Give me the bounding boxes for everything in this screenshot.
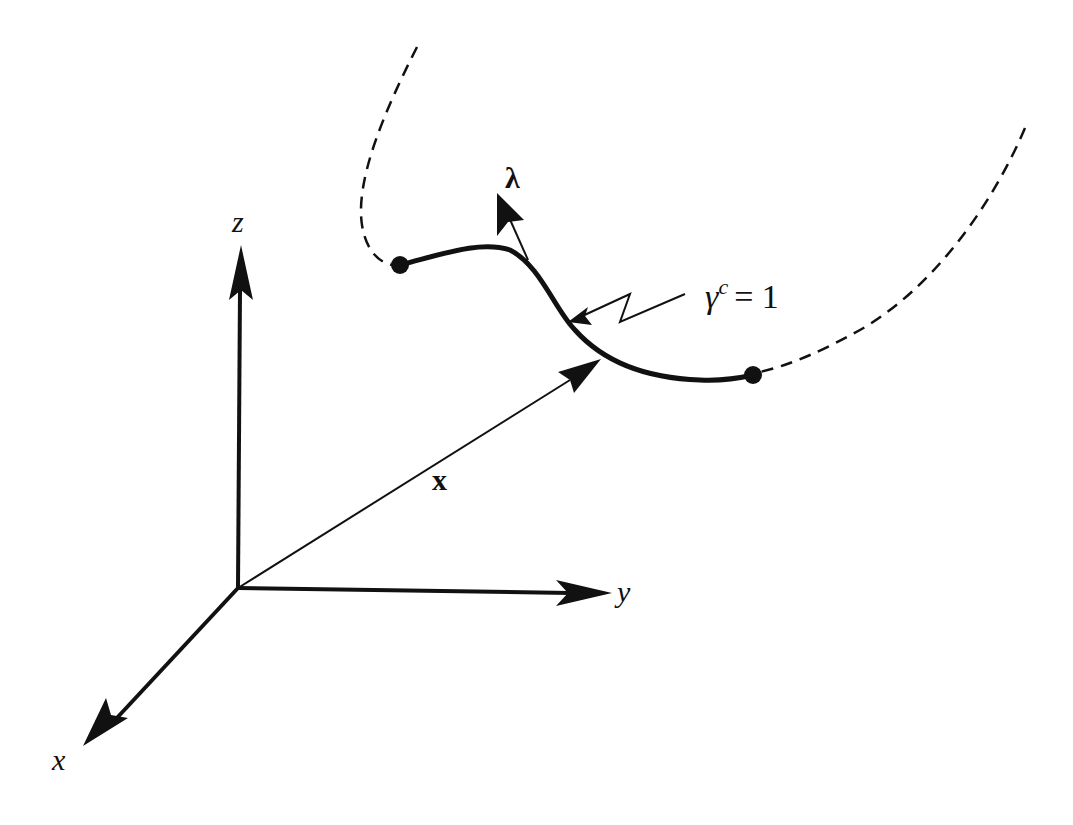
z-axis-line	[238, 290, 240, 588]
zigzag-leader-line	[578, 294, 685, 322]
coordinate-axes	[83, 245, 612, 746]
dashed-curve-left	[361, 47, 417, 265]
curve-end-point	[744, 366, 762, 384]
position-vector-label: x	[432, 463, 447, 496]
position-vector-line	[238, 380, 570, 588]
annotation-pointer	[568, 294, 685, 325]
x-axis-label: x	[51, 743, 66, 776]
position-vector-arrowhead-icon	[558, 359, 601, 393]
x-axis-arrowhead-icon	[83, 698, 128, 746]
y-axis-label: y	[614, 575, 631, 608]
annotation-arrowhead-icon	[568, 307, 592, 325]
z-axis-label: z	[231, 205, 244, 238]
tangent-vector-arrowhead-icon	[497, 193, 524, 236]
dashed-curve-right	[760, 128, 1025, 372]
y-axis-line	[238, 588, 570, 593]
constraint-annotation: γc= 1	[705, 274, 779, 315]
curve-segment	[400, 247, 753, 380]
position-vector	[238, 359, 601, 588]
tangent-vector-label: λ	[505, 161, 520, 194]
x-axis-line	[115, 588, 238, 720]
gamma-superscript: c	[718, 274, 728, 299]
diagram-canvas: z y x x λ γc= 1	[0, 0, 1073, 825]
curve-start-point	[391, 256, 409, 274]
constraint-rhs: = 1	[734, 278, 779, 315]
